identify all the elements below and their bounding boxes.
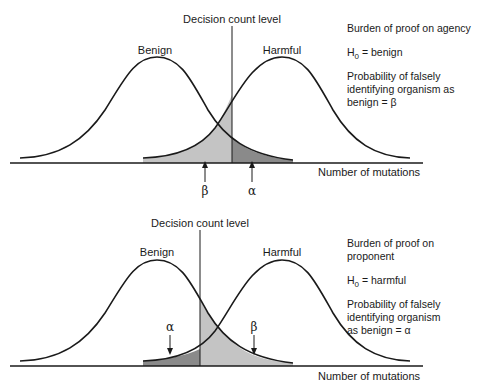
notes-top: Burden of proof on agency H0 = benign Pr… <box>347 22 472 108</box>
svg-text:proponent: proponent <box>347 250 394 262</box>
axis-label-top: Number of mutations <box>318 166 421 178</box>
decision-label-top: Decision count level <box>183 13 281 25</box>
beta-symbol-top: β <box>202 184 209 198</box>
benign-label-top: Benign <box>138 44 172 56</box>
svg-text:benign = β: benign = β <box>347 96 397 108</box>
alpha-arrow-top <box>249 161 255 182</box>
alpha-symbol-bottom: α <box>166 320 174 334</box>
svg-text:Probability of falsely: Probability of falsely <box>347 298 441 310</box>
harmful-label-bottom: Harmful <box>263 246 302 258</box>
svg-text:Burden of proof on agency: Burden of proof on agency <box>347 22 472 34</box>
benign-label-bottom: Benign <box>140 246 174 258</box>
svg-text:identifying organism: identifying organism <box>347 311 441 323</box>
bottom-panel: Decision count level Benign Harmful Numb… <box>10 217 441 382</box>
beta-arrow-top <box>202 161 208 182</box>
hypothesis-testing-diagram: Decision count level Benign Harmful Numb… <box>0 0 485 385</box>
harmful-label-top: Harmful <box>263 44 302 56</box>
decision-label-bottom: Decision count level <box>151 217 249 229</box>
notes-bottom: Burden of proof on proponent H0 = harmfu… <box>347 237 441 336</box>
alpha-arrow-bottom <box>167 335 173 355</box>
svg-text:H0 = harmful: H0 = harmful <box>347 274 406 289</box>
svg-text:H0 = benign: H0 = benign <box>347 46 403 61</box>
alpha-symbol-top: α <box>248 184 256 198</box>
svg-text:Probability of falsely: Probability of falsely <box>347 70 441 82</box>
top-panel: Decision count level Benign Harmful Numb… <box>10 13 472 198</box>
svg-text:as benign = α: as benign = α <box>347 324 411 336</box>
svg-text:identifying organism as: identifying organism as <box>347 83 454 95</box>
axis-label-bottom: Number of mutations <box>318 370 421 382</box>
beta-symbol-bottom: β <box>251 320 258 334</box>
svg-text:Burden of proof on: Burden of proof on <box>347 237 434 249</box>
beta-region-top <box>143 95 232 163</box>
